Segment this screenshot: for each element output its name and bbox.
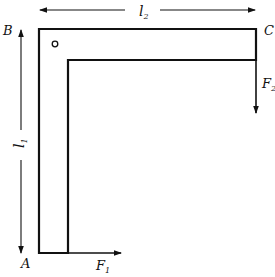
point-label-c: C <box>264 23 274 38</box>
point-label-a: A <box>20 256 30 271</box>
diagram-svg: B A C l2 l1 F1 F2 <box>0 0 275 277</box>
force-label-f1: F1 <box>95 258 110 275</box>
force-label-f2: F2 <box>261 76 275 93</box>
dimension-label-l1: l1 <box>11 138 29 148</box>
frame-diagram: B A C l2 l1 F1 F2 <box>0 0 275 277</box>
dimension-label-l2: l2 <box>139 3 149 21</box>
l-frame-outline <box>39 29 256 253</box>
point-label-b: B <box>2 23 13 38</box>
pivot-circle-icon <box>52 41 58 47</box>
